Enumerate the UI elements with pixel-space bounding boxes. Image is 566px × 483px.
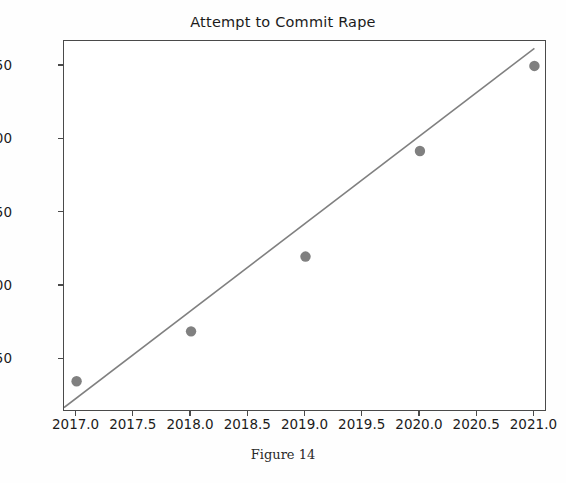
trend-line: [64, 48, 534, 407]
x-tick-mark: [476, 411, 477, 416]
x-tick-mark: [189, 411, 190, 416]
data-point: [71, 376, 81, 386]
plot-svg: [64, 41, 545, 410]
y-tick-label: 300: [0, 277, 12, 293]
chart-title: Attempt to Commit Rape: [0, 14, 566, 30]
data-point: [300, 251, 310, 261]
x-tick-mark: [361, 411, 362, 416]
data-point: [529, 61, 539, 71]
figure-caption: Figure 14: [0, 447, 566, 462]
y-tick-label: 350: [0, 204, 12, 220]
data-point: [186, 326, 196, 336]
data-point: [415, 146, 425, 156]
plot-frame: [63, 40, 546, 411]
y-tick-label: 400: [0, 130, 12, 146]
x-tick-mark: [75, 411, 76, 416]
x-tick-mark: [247, 411, 248, 416]
x-tick-mark: [132, 411, 133, 416]
x-tick-mark: [533, 411, 534, 416]
x-tick-label: 2021.0: [493, 416, 566, 432]
y-tick-label: 450: [0, 57, 12, 73]
x-tick-mark: [304, 411, 305, 416]
y-tick-label: 250: [0, 350, 12, 366]
x-tick-mark: [418, 411, 419, 416]
figure-container: Attempt to Commit Rape 250300350400450 2…: [0, 0, 566, 483]
plot-area: [64, 41, 545, 410]
